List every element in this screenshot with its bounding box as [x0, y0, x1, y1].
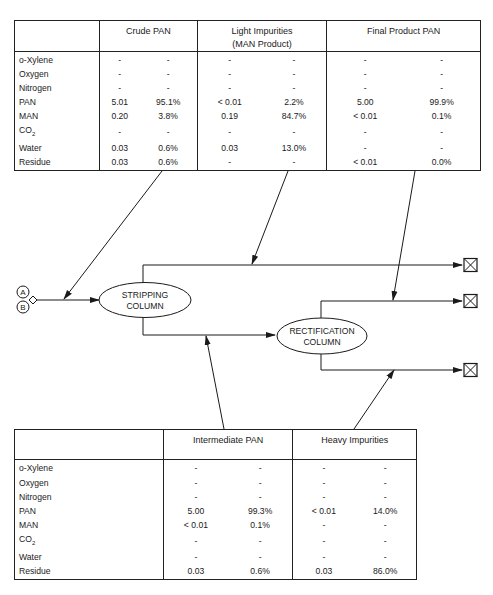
connector-b-label: B — [20, 303, 25, 312]
stripping-column-label-2: COLUMN — [126, 301, 163, 311]
stripping-overhead-stream — [143, 265, 462, 283]
rectification-column[interactable]: RECTIFICATION COLUMN — [277, 318, 367, 354]
process-flow-diagram: A B STRIPPING COLUMN RECTIFICATION COLUM… — [0, 0, 493, 595]
terminal-light-impurities-icon — [464, 259, 477, 272]
leader-final-product-pan — [393, 171, 415, 300]
terminal-final-product-icon — [464, 295, 477, 308]
stripping-bottoms-stream — [143, 318, 275, 336]
leader-light-impurities — [252, 171, 288, 264]
rectification-column-label-1: RECTIFICATION — [289, 326, 354, 336]
leader-heavy-impurities — [354, 370, 394, 429]
rectification-column-label-2: COLUMN — [303, 337, 340, 347]
inlet-connector-a: A — [17, 286, 29, 298]
terminal-heavy-impurities-icon — [464, 364, 477, 377]
rectification-overhead-stream — [321, 301, 462, 318]
leader-crude-pan — [64, 171, 162, 299]
mixer-diamond-icon — [29, 296, 37, 304]
inlet-connector-b: B — [17, 301, 29, 313]
stripping-column-label-1: STRIPPING — [122, 290, 169, 300]
stripping-column[interactable]: STRIPPING COLUMN — [99, 283, 191, 318]
connector-a-label: A — [20, 288, 26, 297]
leader-intermediate-pan — [206, 336, 224, 429]
rectification-bottoms-stream — [321, 354, 462, 370]
